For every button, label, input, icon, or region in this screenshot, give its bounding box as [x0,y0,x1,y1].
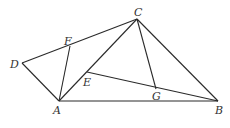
point-label-f: F [63,35,72,48]
point-label-b: B [214,104,223,117]
segments [22,19,218,101]
segment-cg [137,19,156,89]
geometry-diagram: ABCDEFG [0,0,230,128]
point-label-e: E [82,76,91,89]
point-labels: ABCDEFG [9,6,223,117]
point-label-c: C [134,6,143,19]
segment-ac [59,19,137,101]
segment-af [59,46,70,101]
segment-da [22,63,59,101]
point-label-g: G [152,90,161,103]
point-label-a: A [52,104,61,117]
point-label-d: D [9,58,19,71]
segment-cb [137,19,218,101]
segment-dc [22,19,137,63]
